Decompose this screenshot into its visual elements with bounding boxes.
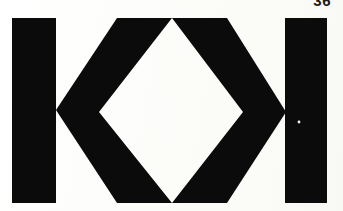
- right-vertical-bar: [285, 18, 327, 203]
- k-diamond-logotype: [0, 0, 343, 211]
- logotype-canvas: [0, 0, 343, 211]
- scan-speck: [298, 121, 301, 124]
- right-chevron: [172, 18, 286, 203]
- scanned-page: 36: [0, 0, 343, 211]
- left-vertical-bar: [12, 18, 56, 203]
- left-chevron: [56, 18, 172, 203]
